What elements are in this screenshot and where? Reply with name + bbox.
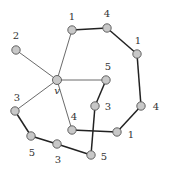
node-label-m: 5 — [101, 151, 107, 162]
node-g — [137, 102, 145, 110]
node-label-e: 5 — [105, 61, 111, 72]
edge-d-g — [137, 54, 141, 106]
node-label-f: 3 — [105, 101, 111, 112]
node-k — [27, 132, 35, 140]
node-label-g: 4 — [153, 101, 159, 112]
node-label-k: 5 — [29, 147, 35, 158]
node-label-v: v — [54, 85, 60, 96]
labels-layer: v2141534143535 — [13, 8, 159, 165]
node-a — [12, 46, 20, 54]
node-v — [53, 76, 62, 85]
node-j — [11, 107, 19, 115]
node-m — [87, 151, 95, 159]
node-c — [103, 24, 111, 32]
node-h — [113, 128, 121, 136]
node-label-j: 3 — [14, 92, 20, 103]
edge-b-c — [72, 28, 107, 30]
node-d — [133, 50, 141, 58]
node-f — [91, 102, 99, 110]
node-label-d: 1 — [135, 35, 141, 46]
node-e — [102, 76, 110, 84]
edge-v-b — [57, 30, 72, 80]
node-label-a: 2 — [13, 30, 19, 41]
edge-v-a — [16, 50, 57, 80]
edge-h-i — [72, 130, 117, 132]
edge-v-j — [15, 80, 57, 111]
node-label-i: 4 — [71, 111, 77, 122]
node-i — [68, 126, 76, 134]
graph-diagram: v2141534143535 — [0, 0, 169, 179]
node-label-l: 3 — [55, 154, 61, 165]
node-label-c: 4 — [104, 8, 110, 19]
node-l — [53, 140, 61, 148]
node-label-b: 1 — [69, 11, 75, 22]
edge-l-m — [57, 144, 91, 155]
edge-c-d — [107, 28, 137, 54]
node-b — [68, 26, 76, 34]
node-label-h: 1 — [128, 129, 134, 140]
